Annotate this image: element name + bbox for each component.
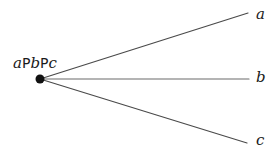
- vertex-label: aPbPc: [13, 56, 57, 71]
- ray-a-line: [40, 13, 248, 79]
- vertex-label-part-b: b: [30, 54, 40, 72]
- ray-c-line: [40, 79, 247, 143]
- vertex-dot: [36, 75, 45, 84]
- vertex-label-part-a: a: [13, 54, 22, 72]
- ray-b-label: b: [256, 70, 266, 85]
- ray-a-label: a: [256, 7, 265, 22]
- ray-c-label: c: [256, 133, 264, 148]
- ray-lines-group: [0, 0, 275, 160]
- vertex-label-part-c: c: [48, 54, 56, 72]
- angle-fan-figure: aPbPc a b c: [0, 0, 275, 160]
